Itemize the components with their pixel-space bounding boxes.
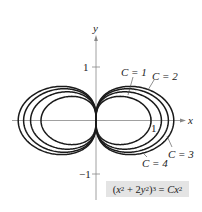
x-tick-label-1: 1 bbox=[151, 122, 157, 134]
eq-plus: + 2 bbox=[124, 184, 140, 195]
c3-text: C = 3 bbox=[168, 148, 194, 160]
c1-text: C = 1 bbox=[121, 66, 147, 78]
y-axis-arrow-icon bbox=[94, 35, 98, 41]
y-tick-label-1: 1 bbox=[83, 61, 89, 73]
y-axis-label: y bbox=[92, 22, 98, 34]
x-axis-label: x bbox=[187, 114, 193, 126]
c2-text: C = 2 bbox=[152, 70, 178, 82]
curve-label-c4: C = 4 bbox=[142, 157, 168, 169]
curve-label-c2: C = 2 bbox=[152, 70, 178, 82]
curve-label-c1: C = 1 bbox=[121, 66, 147, 78]
eq-equals: = bbox=[156, 184, 167, 195]
y-tick-label-neg1: −1 bbox=[79, 168, 91, 180]
equation-box: (x2 + 2y2)3 = Cx2 bbox=[106, 181, 189, 197]
leader-c3 bbox=[167, 136, 172, 147]
curve-label-c3: C = 3 bbox=[168, 148, 194, 160]
c4-text: C = 4 bbox=[142, 157, 168, 169]
x-axis-arrow-icon bbox=[180, 119, 186, 123]
